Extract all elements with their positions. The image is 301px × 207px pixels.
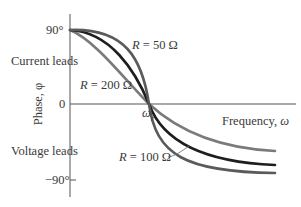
y-tick-label-0: 0	[59, 98, 65, 111]
current-leads-label: Current leads	[11, 55, 78, 68]
x-axis-title-text: Frequency,	[222, 114, 280, 128]
omega-symbol: ω	[280, 114, 289, 128]
r100-label: R = 100 Ω	[119, 151, 171, 164]
omega-r-label: ωr	[142, 107, 154, 123]
y-axis-title: Phase, φ	[32, 83, 45, 126]
voltage-leads-label: Voltage leads	[11, 145, 78, 158]
r200-label: R = 200 Ω	[80, 79, 132, 92]
y-tick-label-neg90: −90°	[45, 174, 70, 187]
x-axis-title: Frequency, ω	[222, 115, 289, 128]
y-tick-label-90: 90°	[46, 24, 64, 37]
r50-label: R = 50 Ω	[132, 39, 178, 52]
